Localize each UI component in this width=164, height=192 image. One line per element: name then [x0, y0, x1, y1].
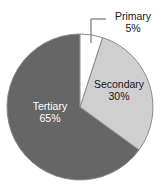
pie-label-tertiary: Tertiary 65% [20, 101, 80, 125]
pie-label-primary-name: Primary [104, 11, 162, 23]
pie-label-primary-value: 5% [104, 23, 162, 35]
pie-label-tertiary-name: Tertiary [20, 101, 80, 113]
pie-chart: Primary 5% Secondary 30% Tertiary 65% [0, 0, 164, 192]
pie-label-secondary: Secondary 30% [86, 79, 152, 103]
pie-label-tertiary-value: 65% [20, 113, 80, 125]
pie-label-secondary-name: Secondary [86, 79, 152, 91]
pie-label-secondary-value: 30% [86, 91, 152, 103]
pie-label-primary: Primary 5% [104, 11, 162, 35]
